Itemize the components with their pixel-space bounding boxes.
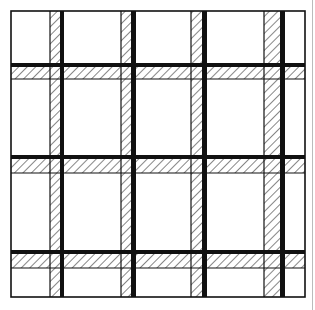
vertical-hatch-band	[50, 11, 60, 297]
vertical-thick-line	[280, 11, 285, 297]
hatched-bands	[11, 11, 305, 297]
vertical-thick-line	[60, 11, 64, 297]
grid-diagram	[0, 0, 315, 310]
vertical-hatch-band	[121, 11, 131, 297]
horizontal-thick-line	[11, 155, 305, 159]
vertical-hatch-band	[264, 11, 280, 297]
vertical-thick-line	[202, 11, 207, 297]
horizontal-thick-line	[11, 250, 305, 254]
vertical-thick-line	[131, 11, 136, 297]
horizontal-thick-line	[11, 63, 305, 67]
page-edge-line	[312, 0, 313, 310]
vertical-hatch-band	[191, 11, 202, 297]
